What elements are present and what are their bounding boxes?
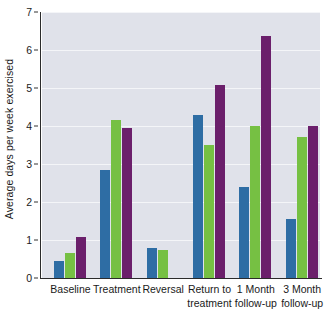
x-axis-category-labels: BaselineTreatmentReversalReturn totreatm… — [42, 283, 320, 326]
y-axis-tick-label: 7 — [18, 6, 32, 18]
bar — [111, 120, 121, 278]
y-axis-tick-mark — [34, 88, 38, 89]
bar — [215, 85, 225, 278]
y-axis-tick-mark — [34, 278, 38, 279]
bar — [286, 219, 296, 278]
y-axis-tick-mark — [34, 126, 38, 127]
bar-group — [193, 12, 226, 278]
x-axis-category-label: 3 Monthfollow-up — [267, 283, 328, 310]
bar-group — [54, 12, 87, 278]
y-axis-tick-label: 3 — [18, 158, 32, 170]
y-axis-tick-mark — [34, 164, 38, 165]
bar — [54, 261, 64, 278]
y-axis-title-text: Average days per week exercised — [3, 59, 15, 220]
bar — [204, 145, 214, 278]
bar-group — [100, 12, 133, 278]
y-axis-tick-label: 0 — [18, 272, 32, 284]
y-axis-tick-label: 6 — [18, 44, 32, 56]
y-axis-tick-labels: 01234567 — [18, 0, 38, 290]
y-axis-tick-mark — [34, 202, 38, 203]
bar — [297, 137, 307, 278]
bar-group — [286, 12, 319, 278]
bar — [193, 115, 203, 278]
y-axis-tick-label: 1 — [18, 234, 32, 246]
bar — [65, 253, 75, 278]
bar — [158, 250, 168, 279]
y-axis-tick-mark — [34, 240, 38, 241]
bar — [261, 36, 271, 278]
bar-chart-figure: Average days per week exercised 01234567… — [0, 0, 328, 326]
bar — [122, 128, 132, 278]
bar — [239, 187, 249, 278]
y-axis-title: Average days per week exercised — [0, 0, 18, 278]
x-axis-line — [40, 278, 322, 279]
y-axis-tick-label: 2 — [18, 196, 32, 208]
bar-group — [239, 12, 272, 278]
bar — [100, 170, 110, 278]
plot-area — [42, 12, 320, 278]
y-axis-tick-mark — [34, 12, 38, 13]
x-axis-category-label-line2: follow-up — [267, 297, 328, 311]
y-axis-tick-mark — [34, 50, 38, 51]
bar — [147, 248, 157, 278]
bar — [76, 237, 86, 278]
x-axis-category-label-line1: 3 Month — [283, 283, 321, 295]
bar — [308, 126, 318, 278]
bar-group — [147, 12, 180, 278]
y-axis-tick-label: 5 — [18, 82, 32, 94]
bar — [250, 126, 260, 278]
y-axis-tick-label: 4 — [18, 120, 32, 132]
